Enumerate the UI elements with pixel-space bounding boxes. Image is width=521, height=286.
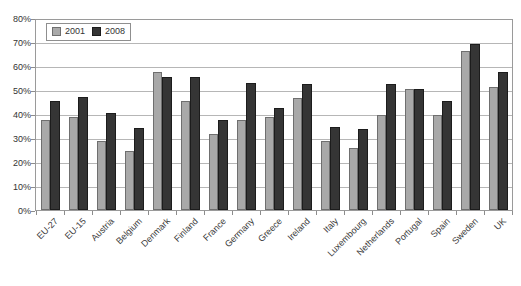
bar-france-2008 [218,120,228,210]
y-tick-label: 0% [0,207,31,216]
bar-group [64,20,92,210]
bar-uk-2008 [498,72,508,210]
bar-group [372,20,400,210]
bar-france-2001 [209,134,219,210]
legend: 2001 2008 [46,23,131,41]
bar-luxembourg-2008 [358,129,368,210]
x-tick-mark [64,211,65,215]
x-label-ireland: Ireland [286,216,313,243]
y-tick-label: 40% [0,111,31,120]
bar-spain-2001 [433,115,443,210]
bar-austria-2001 [97,141,107,210]
bar-group [456,20,484,210]
y-tick-label: 20% [0,159,31,168]
bar-uk-2001 [489,87,499,211]
bar-group [288,20,316,210]
bar-group [232,20,260,210]
x-tick-mark [36,211,37,215]
y-tick-label: 60% [0,63,31,72]
x-tick-mark [120,211,121,215]
bar-eu-27-2008 [50,101,60,210]
x-tick-mark [232,211,233,215]
bar-group [316,20,344,210]
x-tick-mark [344,211,345,215]
legend-item-2001: 2001 [52,27,85,36]
x-label-uk: UK [492,216,508,232]
bar-group [176,20,204,210]
x-tick-mark [456,211,457,215]
x-label-sweden: Sweden [450,216,480,246]
bars-layer [36,20,512,210]
y-tick-label: 50% [0,87,31,96]
x-label-eu-15: EU-15 [63,216,88,241]
bar-italy-2001 [321,141,331,210]
y-axis: 0%10%20%30%40%50%60%70%80% [0,19,31,211]
bar-group [120,20,148,210]
bar-group [260,20,288,210]
x-tick-mark [148,211,149,215]
x-tick-mark [400,211,401,215]
bar-group [92,20,120,210]
bar-finland-2008 [190,77,200,210]
bar-italy-2008 [330,127,340,210]
bar-ireland-2008 [302,84,312,210]
x-label-portugal: Portugal [393,216,424,247]
bar-germany-2001 [237,120,247,210]
bar-group [484,20,512,210]
x-tick-mark [204,211,205,215]
y-tick-label: 30% [0,135,31,144]
legend-label-2008: 2008 [105,27,125,36]
bar-finland-2001 [181,101,191,210]
legend-label-2001: 2001 [65,27,85,36]
bar-luxembourg-2001 [349,148,359,210]
x-tick-mark [288,211,289,215]
x-tick-mark [428,211,429,215]
x-label-austria: Austria [89,216,116,243]
x-label-germany: Germany [223,216,256,249]
bar-denmark-2001 [153,72,163,210]
x-tick-mark [512,211,513,215]
bar-netherlands-2001 [377,115,387,210]
x-label-eu-27: EU-27 [35,216,60,241]
x-tick-mark [176,211,177,215]
bar-eu-15-2001 [69,117,79,210]
bar-netherlands-2008 [386,84,396,210]
bar-ireland-2001 [293,98,303,210]
x-label-finland: Finland [172,216,200,244]
bar-belgium-2001 [125,151,135,210]
x-axis-labels: EU-27EU-15AustriaBelgiumDenmarkFinlandFr… [36,216,512,286]
x-tick-mark [92,211,93,215]
x-label-denmark: Denmark [139,216,172,249]
bar-denmark-2008 [162,77,172,210]
x-label-greece: Greece [256,216,284,244]
bar-group [428,20,456,210]
bar-germany-2008 [246,83,256,210]
y-tick-label: 10% [0,183,31,192]
x-tick-mark [484,211,485,215]
legend-item-2008: 2008 [92,27,125,36]
bar-belgium-2008 [134,128,144,210]
legend-swatch-2001-icon [52,27,61,36]
bar-sweden-2008 [470,44,480,210]
legend-swatch-2008-icon [92,27,101,36]
x-label-france: France [201,216,228,243]
bar-chart: 0%10%20%30%40%50%60%70%80% EU-27EU-15Aus… [0,0,521,286]
bar-spain-2008 [442,101,452,210]
bar-group [344,20,372,210]
bar-eu-15-2008 [78,97,88,210]
bar-group [36,20,64,210]
bar-portugal-2001 [405,89,415,210]
bar-greece-2008 [274,108,284,210]
bar-sweden-2001 [461,51,471,210]
bar-austria-2008 [106,113,116,210]
bar-portugal-2008 [414,89,424,210]
bar-greece-2001 [265,117,275,210]
bar-group [400,20,428,210]
x-tick-mark [316,211,317,215]
bar-group [204,20,232,210]
x-label-italy: Italy [321,216,340,235]
x-label-spain: Spain [429,216,452,239]
y-tick-label: 70% [0,39,31,48]
y-tick-label: 80% [0,15,31,24]
x-tick-mark [260,211,261,215]
